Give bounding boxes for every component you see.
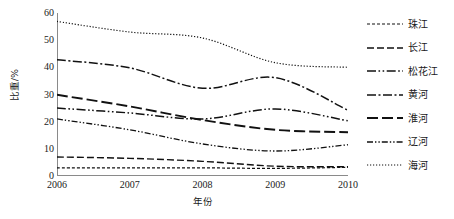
x-axis-title: 年份 [57,196,348,207]
legend-line-swatch [366,43,404,53]
chart-figure: 0102030405060 比重/% 20062007200820092010 … [0,0,454,219]
legend-line-swatch [366,113,404,123]
series-line-2 [57,108,348,121]
legend-line-swatch [366,90,404,100]
legend-item[interactable]: 黄河 [366,87,454,103]
series-line-1 [57,157,348,167]
series-line-3 [57,60,348,111]
legend-item[interactable]: 松花江 [366,63,454,79]
series-line-5 [57,119,348,151]
x-tick-label: 2006 [35,179,79,190]
legend-line-swatch [366,19,404,29]
y-tick-label: 20 [28,117,54,127]
legend-item[interactable]: 长江 [366,40,454,56]
legend-label: 淮河 [404,113,428,124]
series-line-4 [57,95,348,132]
series-canvas [57,13,348,176]
legend-label: 珠江 [404,19,428,30]
x-tick-label: 2007 [108,179,152,190]
y-axis-title: 比重/% [10,57,20,113]
y-tick-label: 40 [28,62,54,72]
legend-label: 辽河 [404,136,428,147]
series-line-6 [57,21,348,67]
legend-line-swatch [366,160,404,170]
legend-item[interactable]: 珠江 [366,16,454,32]
legend-line-swatch [366,137,404,147]
x-axis-tick-labels: 20062007200820092010 [57,179,348,193]
legend-label: 长江 [404,42,428,53]
y-axis-tick-labels: 0102030405060 [28,13,54,176]
chart-legend: 珠江长江松花江黄河淮河辽河海河 [366,16,454,184]
legend-label: 松花江 [404,66,438,77]
x-tick-label: 2008 [181,179,225,190]
legend-line-swatch [366,66,404,76]
legend-item[interactable]: 淮河 [366,110,454,126]
y-tick-label: 30 [28,90,54,100]
legend-item[interactable]: 海河 [366,157,454,173]
x-tick-label: 2010 [326,179,370,190]
legend-label: 黄河 [404,89,428,100]
legend-item[interactable]: 辽河 [366,134,454,150]
x-tick-label: 2009 [253,179,297,190]
legend-label: 海河 [404,160,428,171]
y-tick-label: 10 [28,144,54,154]
y-tick-label: 50 [28,35,54,45]
plot-area [57,13,348,176]
y-tick-label: 60 [28,8,54,18]
series-line-0 [57,167,348,168]
